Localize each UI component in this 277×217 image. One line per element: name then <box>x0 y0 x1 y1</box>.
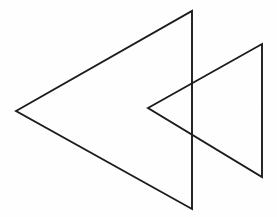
figure-canvas <box>0 0 277 217</box>
large-triangle <box>16 11 192 209</box>
triangles-drawing <box>0 0 277 217</box>
small-triangle <box>148 44 262 177</box>
